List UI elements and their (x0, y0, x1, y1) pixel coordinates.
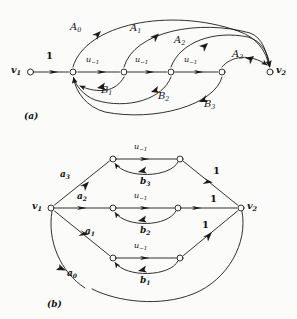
panel-a-A2-label: A2 (174, 35, 185, 45)
panel-b-a1-label: a1 (85, 227, 95, 236)
panel-a-B3-label: B3 (204, 99, 216, 109)
node-b-t2 (177, 156, 183, 162)
panel-b-u-minus-1-top: u−1 (134, 143, 147, 151)
node-b-v1 (48, 205, 54, 211)
node-b-t1 (110, 156, 116, 162)
node-v1 (28, 69, 34, 75)
panel-a-B1-label: B1 (101, 85, 113, 95)
figure-svg (0, 0, 297, 319)
panel-b-v1-label: v1 (32, 201, 42, 211)
figure-page: v1 v2 1 u−1 u−1 u−1 A0 A1 A2 A3 B1 B2 B3… (0, 0, 297, 319)
panel-a-B2-label: B2 (158, 91, 170, 101)
v2-spoke-arrows (192, 178, 213, 242)
panel-b-b3-label: b3 (140, 177, 150, 186)
panel-a-A1-label: A1 (130, 23, 141, 33)
panel-a-A0-label: A0 (70, 22, 81, 32)
panel-a-weight-1: 1 (46, 51, 53, 61)
top-pair-b (115, 159, 178, 175)
panel-a-u-minus-1-third: u−1 (184, 56, 197, 64)
panel-a-u-minus-1-first: u−1 (86, 56, 99, 64)
node-b-b1 (110, 255, 116, 261)
panel-b-a2-label: a2 (77, 192, 87, 201)
panel-b-b2-label: b2 (140, 226, 150, 235)
b-arc-midarrows (97, 83, 208, 103)
node-a3 (168, 69, 174, 75)
panel-b-v2-label: v2 (247, 201, 257, 211)
panel-b-u-minus-1-bot: u−1 (134, 242, 147, 250)
bot-pair-b (115, 258, 178, 274)
panel-a-caption: (a) (24, 112, 38, 121)
panel-a-v2-label: v2 (276, 65, 286, 75)
panel-b-a0-label: a0 (67, 269, 77, 278)
panel-b-weight-1-top: 1 (213, 166, 220, 176)
panel-b-caption: (b) (47, 300, 62, 309)
b-arcs-lower (74, 77, 223, 115)
node-b-m1 (110, 205, 116, 211)
panel-b-a3-label: a3 (60, 170, 70, 179)
node-b-m2 (175, 205, 181, 211)
edge-A3 (222, 57, 267, 67)
node-a2 (121, 69, 127, 75)
a-arc-midarrows (92, 31, 254, 65)
panel-a-A3-label: A3 (232, 49, 243, 59)
panel-b-weight-1-bot: 1 (202, 220, 209, 230)
edge-B3 (74, 77, 223, 115)
v2-spokes-b (92, 161, 243, 302)
panel-a-graphics (28, 20, 274, 115)
node-v2 (267, 69, 273, 75)
panel-b-weight-1-mid: 1 (210, 194, 217, 204)
node-b-b2 (177, 255, 183, 261)
edge-b1 (115, 261, 178, 274)
panel-a-v1-label: v1 (11, 65, 21, 75)
panel-a-u-minus-1-second: u−1 (135, 56, 148, 64)
node-b-v2 (238, 205, 244, 211)
node-a1 (70, 69, 76, 75)
edge-a1 (55, 211, 110, 256)
edge-b3 (115, 162, 178, 175)
panel-b-u-minus-1-mid: u−1 (134, 192, 147, 200)
panel-b-b1-label: b1 (140, 276, 150, 285)
node-a4 (219, 69, 225, 75)
